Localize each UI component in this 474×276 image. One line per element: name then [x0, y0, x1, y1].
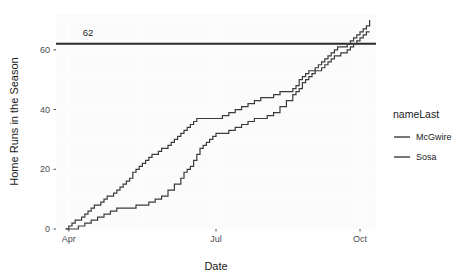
y-axis-title: Home Runs in the Season [8, 57, 20, 185]
legend-entries: McGwireSosa [394, 132, 452, 162]
legend-label-sosa[interactable]: Sosa [416, 152, 437, 162]
y-tick-label: 40 [40, 105, 50, 115]
x-tick-label: Apr [62, 234, 76, 244]
chart-container: 62 0204060 AprJulOct Home Runs in the Se… [0, 0, 474, 276]
y-axis-ticks: 0204060 [40, 45, 56, 234]
x-tick-label: Jul [210, 234, 222, 244]
annotation-label-62: 62 [83, 27, 94, 38]
y-tick-label: 20 [40, 164, 50, 174]
legend: nameLast McGwireSosa [393, 108, 452, 162]
legend-title: nameLast [393, 108, 439, 120]
y-tick-label: 60 [40, 45, 50, 55]
x-axis-ticks: AprJulOct [62, 229, 368, 244]
legend-label-mcgwire[interactable]: McGwire [416, 132, 452, 142]
x-axis-title: Date [204, 260, 227, 272]
x-tick-label: Oct [353, 234, 368, 244]
chart-svg: 62 0204060 AprJulOct Home Runs in the Se… [0, 0, 474, 276]
y-tick-label: 0 [45, 224, 50, 234]
